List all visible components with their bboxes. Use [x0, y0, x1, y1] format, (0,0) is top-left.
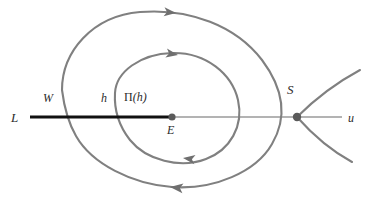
label-u-axis: u [348, 112, 354, 124]
label-h: h [101, 92, 107, 104]
label-S: S [287, 83, 294, 96]
label-W: W [43, 92, 53, 104]
label-pi-symbol: Π [124, 90, 133, 104]
label-L: L [11, 111, 18, 124]
point-E-center [168, 113, 175, 120]
outer-trajectory-curve [62, 11, 281, 187]
label-E: E [167, 124, 174, 136]
label-pi-of-h: Π(h) [124, 91, 147, 103]
label-pi-argument: (h) [133, 90, 147, 104]
phase-portrait-svg [0, 0, 373, 201]
inner-trajectory-curve [115, 53, 240, 163]
figure-canvas: L W h Π(h) E S u [0, 0, 373, 201]
saddle-separatrix-upper-right [297, 70, 360, 117]
saddle-separatrix-lower-right [297, 117, 352, 162]
point-S-saddle [293, 113, 301, 121]
